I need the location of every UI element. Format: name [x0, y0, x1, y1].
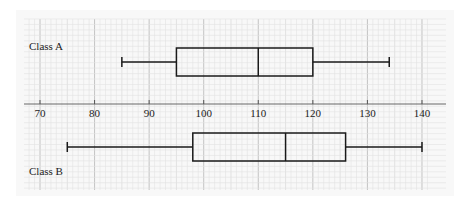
tick-label: 70 — [35, 107, 47, 119]
tick-label: 90 — [144, 107, 156, 119]
class-b-label: Class B — [29, 165, 63, 177]
tick-label: 110 — [250, 107, 267, 119]
tick-label: 80 — [89, 107, 101, 119]
class-a-label: Class A — [29, 40, 63, 52]
tick-label: 130 — [359, 107, 376, 119]
x-axis-ticks: 708090100110120130140 — [35, 100, 431, 119]
tick-label: 120 — [305, 107, 322, 119]
box-plot-chart: 708090100110120130140 Class A Class B — [0, 0, 460, 199]
box-class-b — [67, 133, 422, 161]
box-class-a — [122, 48, 389, 76]
tick-label: 100 — [195, 107, 212, 119]
tick-label: 140 — [414, 107, 431, 119]
